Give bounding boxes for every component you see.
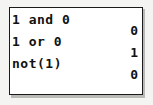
calc-row: not(1) 0 bbox=[12, 53, 139, 75]
calc-row: 1 and 0 0 bbox=[12, 9, 139, 31]
calculator-lcd-screen[interactable]: 1 and 0 0 1 or 0 1 not(1) 0 bbox=[9, 7, 143, 95]
entry-answer: 0 bbox=[130, 64, 138, 86]
entry-expression: 1 or 0 bbox=[12, 31, 62, 53]
entry-expression: not(1) bbox=[12, 53, 62, 75]
home-screen-history: 1 and 0 0 1 or 0 1 not(1) 0 bbox=[10, 8, 142, 94]
entry-expression: 1 and 0 bbox=[12, 9, 70, 31]
text-cursor bbox=[12, 86, 19, 95]
calc-row: 1 or 0 1 bbox=[12, 31, 139, 53]
calculator-screenshot: 1 and 0 0 1 or 0 1 not(1) 0 bbox=[0, 0, 153, 105]
